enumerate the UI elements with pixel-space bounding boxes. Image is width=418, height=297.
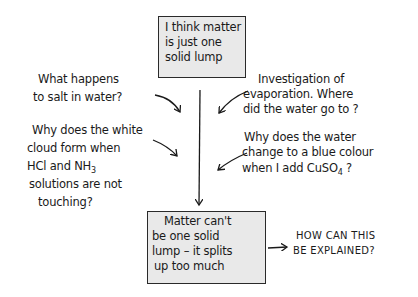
conclusion-line-4: up too much [152,259,265,274]
conclusion-line-2: be one solid [152,229,265,244]
cloud-line-3: HCl and NH3 [27,159,96,174]
evap-line-3: did the water go to ? [243,102,359,117]
arrow-salt [155,95,180,112]
cuso4-line-1: Why does the water [244,130,356,145]
cloud-line-2: cloud form when [27,141,120,156]
question-line-1: HOW CAN THIS [296,228,375,243]
salt-line-1: What happens [38,72,119,87]
conclusion-line-1: Matter can't [152,214,265,229]
cloud-line-5: touching? [38,195,93,210]
cuso4-line-2: change to a blue colour [242,145,373,160]
main-down-arrow [199,90,200,205]
start-line-2: is just one [165,35,245,50]
salt-line-2: to salt in water? [33,90,122,105]
start-line-3: solid lump [165,50,245,65]
cloud-line-4: solutions are not [29,177,122,192]
cuso4-line-3: when I add CuSO4 ? [242,161,352,176]
arrow-cloud [153,140,177,156]
evap-line-2: evaporation. Where [243,87,353,102]
conclusion-box: Matter can't be one solid lump – it spli… [147,211,266,284]
arrow-to-question [268,247,287,248]
start-hypothesis-box: I think matter is just one solid lump [158,16,246,78]
cloud-line-1: Why does the white [32,123,143,138]
start-line-1: I think matter [165,20,245,35]
evap-line-1: Investigation of [258,72,344,87]
conclusion-line-3: lump – it splits [152,244,265,259]
question-line-2: BE EXPLAINED? [293,243,375,258]
